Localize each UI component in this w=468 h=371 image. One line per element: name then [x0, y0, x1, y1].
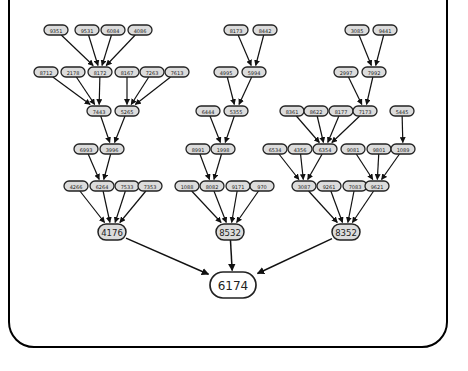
node-label: 8442: [259, 28, 272, 34]
tree-node: 8082: [200, 181, 224, 191]
edge-arrow: [227, 77, 234, 105]
edge-arrow: [214, 191, 226, 223]
tree-node: 9621: [365, 181, 389, 191]
edge-arrow: [238, 35, 251, 66]
node-label: 5994: [248, 70, 261, 76]
node-label: 7992: [368, 70, 381, 76]
node-label: 4995: [220, 70, 233, 76]
node-label: 7173: [359, 109, 372, 115]
edge-arrow: [348, 191, 354, 223]
edge-arrow: [296, 116, 319, 143]
node-label: 6084: [107, 28, 120, 34]
edge-arrow: [239, 77, 252, 105]
tree-node: 6444: [196, 106, 220, 116]
node-label: 6444: [202, 109, 215, 115]
edge-arrow: [356, 154, 373, 180]
edge-arrow: [88, 154, 99, 180]
branch-node: 8532: [216, 224, 244, 240]
node-label: 1089: [397, 147, 410, 153]
tree-node: 8712: [34, 67, 58, 77]
node-label: 8622: [310, 109, 323, 115]
tree-node: 7613: [165, 67, 189, 77]
node-label: 6534: [269, 147, 282, 153]
node-label: 9801: [373, 147, 386, 153]
node-label: 3087: [298, 184, 311, 190]
node-label: 5355: [230, 109, 243, 115]
node-label: 8532: [219, 228, 241, 238]
edge-arrow: [99, 77, 100, 105]
tree-node: 7083: [343, 181, 367, 191]
tree-node: 9441: [373, 25, 397, 35]
tree-node: 8167: [115, 67, 139, 77]
node-label: 7613: [171, 70, 184, 76]
tree-node: 3996: [100, 144, 124, 154]
node-label: 1998: [217, 147, 230, 153]
edge-arrow: [256, 35, 264, 66]
tree-node: 9171: [226, 181, 250, 191]
node-label: 6354: [319, 147, 332, 153]
node-label: 8167: [121, 70, 134, 76]
tree-node: 8177: [329, 106, 353, 116]
tree-node: 2997: [334, 67, 358, 77]
node-label: 8361: [286, 109, 299, 115]
tree-node: 4995: [214, 67, 238, 77]
node-label: 3996: [106, 147, 119, 153]
edge-arrow: [376, 35, 384, 66]
node-label: 4176: [101, 228, 123, 238]
tree-node: 3087: [292, 181, 316, 191]
edge-arrow: [332, 116, 360, 143]
tree-node: 8172: [88, 67, 112, 77]
tree-node: 6084: [101, 25, 125, 35]
tree-node: 4356: [288, 144, 312, 154]
tree-node: 7263: [140, 67, 164, 77]
tree-node: 970: [250, 181, 274, 191]
tree-node: 8622: [304, 106, 328, 116]
tree-node: 7353: [138, 181, 162, 191]
edge-arrow: [126, 238, 209, 274]
node-label: 9351: [50, 28, 63, 34]
tree-node: 9351: [44, 25, 68, 35]
node-label: 6264: [96, 184, 109, 190]
node-label: 8172: [94, 70, 107, 76]
tree-node: 7533: [115, 181, 139, 191]
node-label: 8712: [40, 70, 53, 76]
tree-node: 9261: [317, 181, 341, 191]
edge-arrow: [200, 154, 210, 180]
tree-node: 7173: [353, 106, 377, 116]
node-label: 8177: [335, 109, 348, 115]
tree-node: 9801: [367, 144, 391, 154]
tree-node: 6354: [313, 144, 337, 154]
edge-arrow: [352, 191, 373, 223]
node-label: 8082: [206, 184, 219, 190]
node-label: 2178: [67, 70, 80, 76]
edge-arrow: [237, 191, 259, 223]
tree-node: 8442: [253, 25, 277, 35]
tree-node: 5994: [242, 67, 266, 77]
tree-node: 6534: [263, 144, 287, 154]
tree-node: 7443: [87, 106, 111, 116]
edge-arrow: [232, 191, 237, 223]
branch-node: 4176: [98, 224, 126, 240]
node-label: 1088: [181, 184, 194, 190]
tree-node: 8173: [224, 25, 248, 35]
edge-arrow: [308, 154, 322, 180]
node-label: 8352: [335, 228, 357, 238]
tree-node: 6993: [74, 144, 98, 154]
edge-arrow: [225, 116, 234, 143]
node-label: 9531: [81, 28, 94, 34]
tree-node: 7992: [362, 67, 386, 77]
node-label: 7263: [146, 70, 159, 76]
edge-arrow: [382, 154, 400, 180]
edge-arrow: [103, 191, 110, 223]
tree-node: 9531: [75, 25, 99, 35]
node-label: 9171: [232, 184, 245, 190]
edge-arrow: [367, 77, 373, 105]
node-label: 8173: [230, 28, 243, 34]
node-label: 4356: [294, 147, 307, 153]
tree-node: 5355: [224, 106, 248, 116]
tree-node: 6264: [90, 181, 114, 191]
node-label: 5265: [121, 109, 134, 115]
edge-arrow: [348, 77, 361, 105]
edge-arrow: [230, 240, 232, 271]
node-label: 9621: [371, 184, 384, 190]
